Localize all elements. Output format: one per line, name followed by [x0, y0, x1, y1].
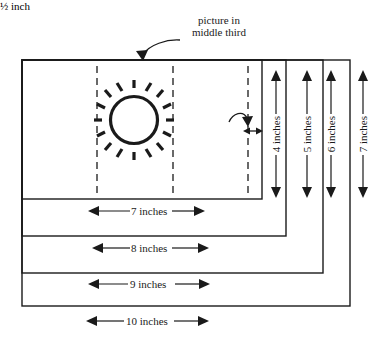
rectangle-10x7 [22, 60, 350, 306]
dimension-label-10-inches: 10 inches [126, 315, 168, 327]
horizontal-dimension-arrows [86, 206, 210, 326]
dimension-label-5-inches: 5 inches [301, 110, 313, 158]
dimension-label-8-inches: 8 inches [131, 242, 167, 254]
diagram-canvas: picture in middle third ½ inch 7 inches … [0, 0, 378, 345]
dimension-label-4-inches: 4 inches [270, 110, 282, 158]
curved-arrow-icon-callout [136, 40, 180, 61]
nested-rectangles [22, 60, 350, 306]
dimension-label-7-inches: 7 inches [131, 205, 167, 217]
diagram-drawing [0, 0, 378, 345]
callout-picture-in-middle-third: picture in middle third [178, 14, 260, 39]
dimension-label-7-inches-vertical: 7 inches [357, 110, 369, 158]
dimension-label-6-inches: 6 inches [325, 110, 337, 158]
sun-icon [94, 80, 174, 160]
callout-line-2: middle third [178, 26, 260, 38]
curved-arrow-icon-gap [229, 113, 253, 127]
callout-line-1: picture in [178, 14, 260, 26]
double-headed-arrow-icon-half-inch [243, 128, 263, 135]
sun-disc [111, 97, 158, 144]
dimension-label-9-inches: 9 inches [130, 278, 166, 290]
